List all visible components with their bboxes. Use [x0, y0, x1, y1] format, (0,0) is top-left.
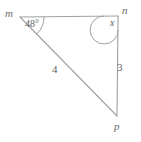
side-label-mp: 4 [52, 64, 58, 75]
geometry-figure: m n p 48° x 4 3 [0, 0, 141, 142]
vertex-label-p: p [114, 121, 120, 132]
vertex-label-m: m [5, 8, 13, 19]
side-mp-line [20, 17, 117, 116]
angle-label-n: x [110, 18, 114, 28]
angle-label-m: 48° [25, 19, 39, 29]
side-label-np: 3 [117, 62, 123, 73]
vertex-label-n: n [122, 5, 128, 16]
